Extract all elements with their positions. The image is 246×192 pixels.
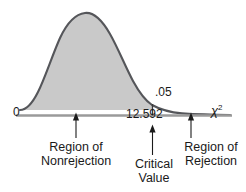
region-of-nonrejection-label: Region of Nonrejection [14, 140, 138, 168]
critical-value-tick-label: 12.592 [126, 108, 163, 121]
critical-value-label-line-1: Critical [124, 157, 184, 171]
nonrejection-label-line-2: Nonrejection [14, 154, 138, 168]
rejection-label-line-1: Region of [176, 140, 246, 154]
critical-value-label-line-2: Value [124, 171, 184, 185]
region-of-rejection-label: Region of Rejection [176, 140, 246, 168]
nonrejection-shaded-area [20, 13, 152, 110]
critical-value-label: Critical Value [124, 157, 184, 185]
nonrejection-label-line-1: Region of [14, 140, 138, 154]
rejection-label-line-2: Rejection [176, 154, 246, 168]
critical-value-pointer-arrow [149, 125, 155, 156]
x-axis-title: χ2 [211, 104, 223, 119]
chi-square-distribution-figure: 0 12.592 .05 χ2 Region of Nonrejection C… [0, 0, 246, 192]
chi-exponent: 2 [218, 103, 222, 112]
tail-area-label: .05 [155, 86, 172, 99]
axis-origin-label: 0 [13, 106, 20, 119]
